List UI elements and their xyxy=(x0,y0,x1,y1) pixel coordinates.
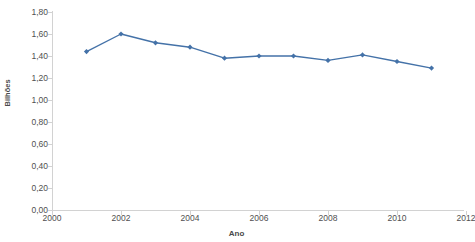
y-axis-tick-mark xyxy=(48,12,52,13)
y-axis-tick-mark xyxy=(48,122,52,123)
data-point-marker[interactable] xyxy=(118,31,123,36)
y-axis-tick-mark xyxy=(48,166,52,167)
data-point-marker[interactable] xyxy=(360,52,365,57)
y-axis-tick-label: 0,80 xyxy=(4,117,48,127)
data-point-marker[interactable] xyxy=(84,49,89,54)
y-axis-tick-label: 0,20 xyxy=(4,183,48,193)
x-axis-tick-mark xyxy=(397,211,398,215)
data-point-marker[interactable] xyxy=(153,40,158,45)
y-axis-tick-label: 0,60 xyxy=(4,139,48,149)
data-point-marker[interactable] xyxy=(325,58,330,63)
series-line xyxy=(87,34,432,68)
y-axis-tick-mark xyxy=(48,56,52,57)
data-point-marker[interactable] xyxy=(291,53,296,58)
series-plot xyxy=(52,12,466,210)
y-axis-tick-label: 1,40 xyxy=(4,51,48,61)
data-point-marker[interactable] xyxy=(222,56,227,61)
data-point-marker[interactable] xyxy=(394,59,399,64)
y-axis-tick-mark xyxy=(48,34,52,35)
chart-title xyxy=(0,0,473,2)
data-point-marker[interactable] xyxy=(256,53,261,58)
plot-area xyxy=(52,12,466,210)
y-axis-title: Bilhões xyxy=(3,93,12,107)
x-axis-tick-mark xyxy=(121,211,122,215)
x-axis-line xyxy=(52,210,464,211)
x-axis-tick-labels: 2000200220042006200820102012 xyxy=(0,213,473,227)
y-axis-tick-label: 1,80 xyxy=(4,7,48,17)
x-axis-tick-mark xyxy=(259,211,260,215)
x-axis-title: Ano xyxy=(0,229,473,238)
x-axis-tick-mark xyxy=(466,211,467,215)
y-axis-tick-label: 1,60 xyxy=(4,29,48,39)
data-point-marker[interactable] xyxy=(429,66,434,71)
data-point-marker[interactable] xyxy=(187,45,192,50)
y-axis-tick-mark xyxy=(48,78,52,79)
y-axis-tick-label: 0,40 xyxy=(4,161,48,171)
y-axis-tick-labels: 0,000,200,400,600,801,001,201,401,601,80 xyxy=(0,0,48,242)
x-axis-tick-mark xyxy=(190,211,191,215)
y-axis-tick-mark xyxy=(48,188,52,189)
y-axis-tick-mark xyxy=(48,144,52,145)
x-axis-tick-mark xyxy=(52,211,53,215)
x-axis-tick-mark xyxy=(328,211,329,215)
y-axis-tick-mark xyxy=(48,100,52,101)
